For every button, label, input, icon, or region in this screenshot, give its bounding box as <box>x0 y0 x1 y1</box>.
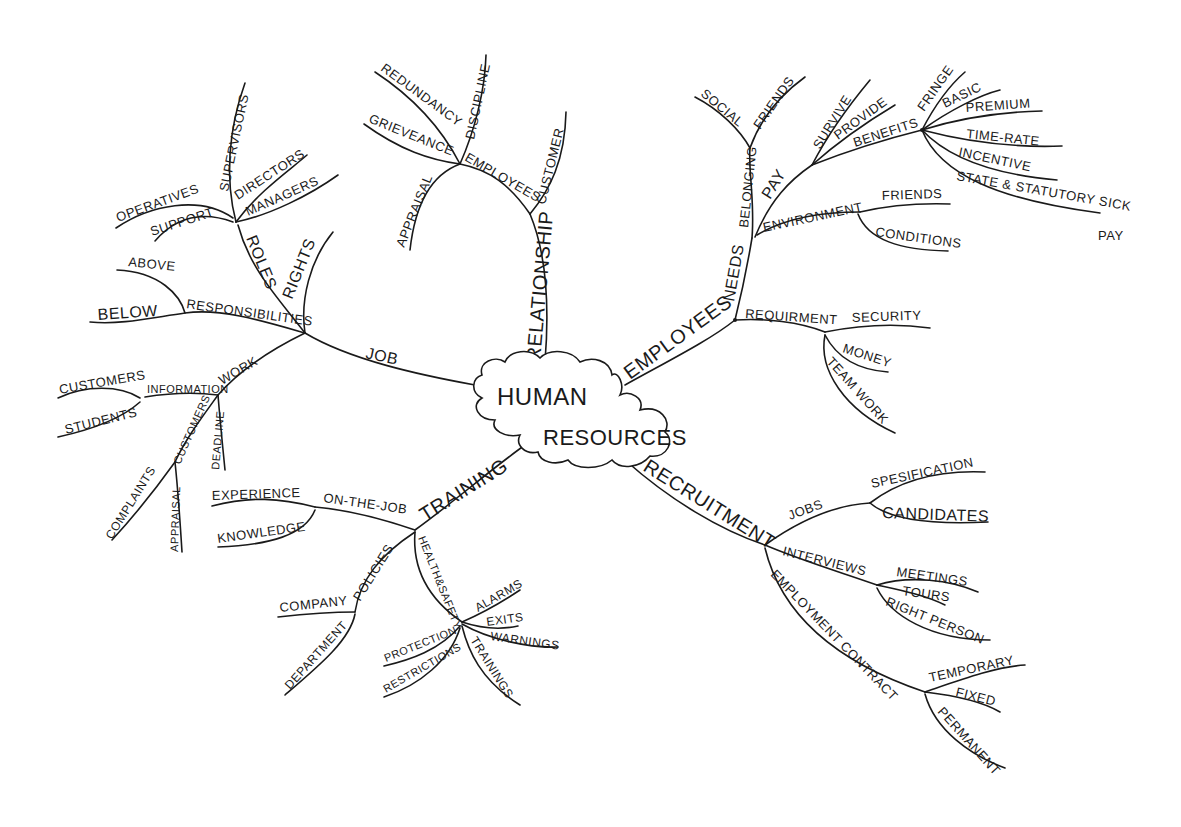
label-supervisors: SUPERVISORS <box>216 92 251 192</box>
label-rel-employees: EMPLOYEES <box>463 150 544 205</box>
label-discipline: DISCIPLINE <box>462 62 493 141</box>
label-permanent: PERMANENT <box>935 704 1004 778</box>
label-needs: NEEDS <box>720 243 747 303</box>
center-line-2: RESOURCES <box>543 425 687 450</box>
label-work-customers: CUSTOMERS <box>171 393 212 466</box>
label-below: BELOW <box>97 302 159 323</box>
label-state-statutory: STATE & STATUTORY SICK <box>955 168 1132 213</box>
label-department: DEPARTMENT <box>282 618 350 692</box>
label-roles: ROLES <box>243 233 280 292</box>
branch-employees: EMPLOYEES NEEDS BELONGING SOCIAL FRIENDS… <box>619 62 1132 433</box>
label-information: INFORMATION <box>147 383 229 395</box>
line-work <box>218 333 305 395</box>
label-conditions: CONDITIONS <box>875 224 963 251</box>
label-job: JOB <box>364 344 399 367</box>
label-alarms: ALARMS <box>473 576 525 614</box>
label-on-the-job: ON-THE-JOB <box>323 490 409 517</box>
label-requirment: REQUIRMENT <box>745 306 838 327</box>
label-jobs: JOBS <box>786 496 825 522</box>
label-fixed: FIXED <box>954 684 997 708</box>
label-above: ABOVE <box>128 254 177 274</box>
branch-training: TRAINING ON-THE-JOB EXPERIENCE KNOWLEDGE… <box>212 445 561 705</box>
branch-job: JOB ROLES RIGHTS SUPERVISORS DIRECTORS M… <box>58 83 475 552</box>
label-environment: ENVIRONMENT <box>762 199 864 235</box>
label-temporary: TEMPORARY <box>928 652 1016 685</box>
label-pay: PAY <box>758 166 789 201</box>
line-env-friends <box>860 204 950 212</box>
label-recruitment: RECRUITMENT <box>640 455 780 554</box>
label-belonging: BELONGING <box>736 145 759 228</box>
label-warnings: WARNINGS <box>490 629 561 653</box>
mind-map-canvas: JOB ROLES RIGHTS SUPERVISORS DIRECTORS M… <box>0 0 1181 827</box>
label-employment-contract: EMPLOYMENT CONTRACT <box>768 567 901 704</box>
label-students: STUDENTS <box>63 404 138 436</box>
label-candidates: CANDIDATES <box>882 504 989 525</box>
label-friends-belong: FRIENDS <box>750 74 797 132</box>
mind-map-svg: JOB ROLES RIGHTS SUPERVISORS DIRECTORS M… <box>0 0 1181 827</box>
center-line-1: HUMAN <box>497 383 588 410</box>
label-social: SOCIAL <box>698 86 746 130</box>
line-security <box>825 325 930 332</box>
label-experience: EXPERIENCE <box>212 485 301 503</box>
label-money: MONEY <box>841 341 893 371</box>
label-training: TRAINING <box>415 454 511 525</box>
label-time-rate: TIME-RATE <box>966 126 1041 149</box>
label-sick-pay: PAY <box>1098 228 1124 243</box>
label-health-safety: HEALTH&SAFETY <box>416 534 464 631</box>
label-employees: EMPLOYEES <box>619 290 735 383</box>
label-relationship: RELATIONSHIP <box>522 210 557 363</box>
label-appraisal-work: APPRAISAL <box>168 486 182 552</box>
label-interviews: INTERVIEWS <box>781 543 868 578</box>
label-env-friends: FRIENDS <box>882 186 943 203</box>
label-policies: POLICIES <box>350 541 397 603</box>
label-complaints: COMPLAINTS <box>103 464 159 542</box>
branch-recruitment: RECRUITMENT JOBS SPESIFICATION CANDIDATE… <box>625 455 1025 778</box>
label-rel-appraisal: APPRAISAL <box>393 172 436 249</box>
branch-relationship: RELATIONSHIP CUSTOMER EMPLOYEES REDUNDAN… <box>364 55 567 362</box>
label-security: SECURITY <box>852 308 922 325</box>
label-info-customers: CUSTOMERS <box>58 367 147 397</box>
